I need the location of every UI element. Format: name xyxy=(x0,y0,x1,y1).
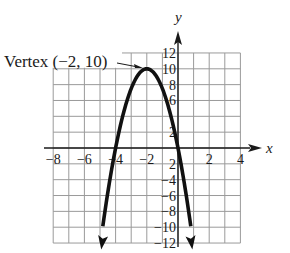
y-tick-label: −4 xyxy=(161,173,176,188)
x-tick-label: −6 xyxy=(77,152,92,167)
y-tick-label: −6 xyxy=(161,189,176,204)
vertex-annotation: Vertex (−2, 10) xyxy=(4,52,143,71)
y-tick-label: 12 xyxy=(162,46,176,61)
x-tick-label: −8 xyxy=(46,152,61,167)
x-axis-arrow-icon xyxy=(248,144,262,152)
y-tick-label: −12 xyxy=(154,236,176,251)
y-tick-label: −10 xyxy=(154,220,176,235)
vertex-label: Vertex (−2, 10) xyxy=(4,52,108,71)
vertex-pointer-arrow-icon xyxy=(134,64,143,68)
y-tick-label: −8 xyxy=(161,204,176,219)
y-tick-label: 10 xyxy=(162,62,176,77)
y-axis-label: y xyxy=(173,9,182,25)
x-axis-label: x xyxy=(265,140,273,156)
parabola-graph: x y −8−6−4−22412108622−4−6−8−10−12 Verte… xyxy=(0,0,290,253)
x-tick-label: 4 xyxy=(237,152,244,167)
x-tick-label: 2 xyxy=(206,152,213,167)
x-tick-label: −2 xyxy=(139,152,154,167)
y-tick-label: 2 xyxy=(169,157,176,172)
y-tick-label: 8 xyxy=(169,78,176,93)
